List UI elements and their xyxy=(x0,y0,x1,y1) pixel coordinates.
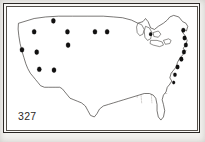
record-dot xyxy=(93,29,97,34)
record-dot xyxy=(52,67,56,72)
record-dot xyxy=(183,36,187,41)
record-dot xyxy=(51,18,55,23)
record-dot xyxy=(172,81,175,84)
record-dot xyxy=(180,57,184,62)
record-dot xyxy=(66,42,70,47)
record-dot xyxy=(32,29,36,34)
record-dot xyxy=(37,67,41,72)
record-dot xyxy=(105,29,109,34)
record-dot xyxy=(20,47,24,52)
figure-number-label: 327 xyxy=(18,111,36,122)
record-dot xyxy=(173,73,176,77)
record-dot xyxy=(182,50,186,55)
figure-plate: 327 xyxy=(0,0,205,142)
record-dot xyxy=(65,29,69,34)
record-dot xyxy=(149,32,152,36)
record-dot xyxy=(35,50,39,55)
record-dot xyxy=(176,65,180,70)
record-dot xyxy=(184,43,188,48)
national-coastline xyxy=(18,15,188,120)
distribution-map: 327 xyxy=(6,6,198,131)
record-dot xyxy=(181,28,185,33)
